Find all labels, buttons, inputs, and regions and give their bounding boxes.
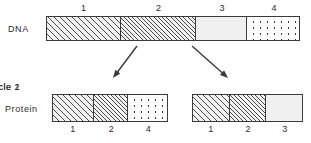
muscle-2-segment-1 <box>193 95 230 121</box>
muscle-2-segment-2 <box>230 95 266 121</box>
muscle-2-segment-3 <box>266 95 302 121</box>
dna-protein-splicing-diagram: DNA Protein 1 2 3 4 Muscle 1 1 2 4 Muscl… <box>0 0 311 143</box>
muscle-1-segment-4 <box>128 95 167 121</box>
dna-row-label: DNA <box>8 24 29 34</box>
muscle-1-protein-bar <box>52 94 168 122</box>
dna-segment-label-3: 3 <box>219 3 224 13</box>
dna-segment-2 <box>121 17 195 40</box>
arrow-to-muscle-1 <box>113 46 137 78</box>
muscle-1-segment-label-1: 1 <box>70 124 75 134</box>
muscle-1-segment-2 <box>94 95 128 121</box>
dna-segment-label-2: 2 <box>156 3 161 13</box>
muscle-1-segment-1 <box>53 95 94 121</box>
muscle-2-protein-bar <box>192 94 303 122</box>
dna-segment-label-4: 4 <box>271 3 276 13</box>
muscle-2-segment-label-3: 3 <box>282 124 287 134</box>
muscle-1-segment-label-4: 4 <box>146 124 151 134</box>
dna-segment-4 <box>247 17 299 40</box>
muscle-2-title: Muscle 2 <box>0 82 20 92</box>
muscle-1-segment-label-2: 2 <box>109 124 114 134</box>
muscle-2-segment-label-1: 1 <box>208 124 213 134</box>
dna-segment-label-1: 1 <box>81 3 86 13</box>
dna-segment-3 <box>196 17 248 40</box>
muscle-2-segment-label-2: 2 <box>246 124 251 134</box>
dna-bar <box>46 16 300 41</box>
dna-segment-1 <box>47 17 121 40</box>
protein-row-label: Protein <box>5 104 38 114</box>
arrow-to-muscle-2 <box>192 46 228 78</box>
